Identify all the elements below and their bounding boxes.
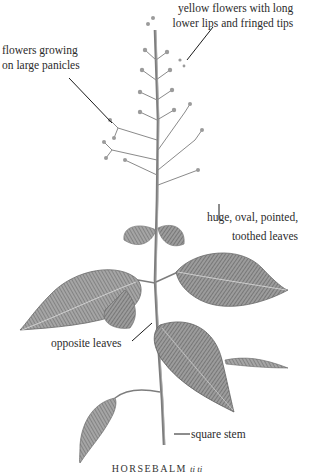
caption-latin-name: ti ti bbox=[190, 464, 202, 474]
flower-buds bbox=[102, 16, 204, 172]
leader-panicles bbox=[69, 78, 112, 123]
annotation-panicles-line2: on large panicles bbox=[2, 58, 80, 73]
annotation-stem: square stem bbox=[191, 427, 246, 442]
leaf-lower-right bbox=[225, 358, 288, 368]
annotation-stem-line1: square stem bbox=[191, 427, 246, 442]
annotation-panicles-line1: flowers growing bbox=[2, 43, 80, 58]
annotation-flowers: yellow flowers with long lower lips and … bbox=[178, 1, 293, 31]
annotation-leaves-line2: toothed leaves bbox=[207, 229, 298, 244]
flower-panicle bbox=[104, 50, 202, 185]
annotation-leaves: huge, oval, pointed, toothed leaves bbox=[207, 210, 298, 244]
figure-caption: HORSEBALMti ti bbox=[0, 463, 314, 474]
leaf-left-large bbox=[20, 270, 155, 330]
small-leaf-left bbox=[124, 226, 156, 245]
annotation-flowers-line1: yellow flowers with long bbox=[178, 1, 293, 16]
annotation-panicles: flowers growing on large panicles bbox=[2, 43, 80, 73]
leaf-right-large bbox=[156, 253, 288, 306]
leader-opposite bbox=[132, 323, 152, 341]
annotation-flowers-line2: lower lips and fringed tips bbox=[172, 16, 293, 31]
leaf-lower-left bbox=[80, 390, 160, 463]
annotation-opposite: opposite leaves bbox=[51, 336, 122, 351]
annotation-leaves-line1: huge, oval, pointed, bbox=[207, 210, 298, 225]
annotation-opposite-line1: opposite leaves bbox=[51, 336, 122, 351]
leaf-lower-center bbox=[154, 322, 234, 412]
leader-flowers bbox=[187, 27, 213, 60]
small-leaf-right bbox=[158, 225, 184, 245]
caption-common-name: HORSEBALM bbox=[112, 463, 187, 474]
